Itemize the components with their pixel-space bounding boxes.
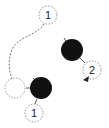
- ghost-touch-left: [5, 78, 25, 98]
- drag-path: [9, 24, 44, 79]
- tick-right-finger: [64, 38, 66, 41]
- step-2-marker: 2: [83, 61, 101, 79]
- step-1-top-label: 1: [45, 9, 51, 21]
- finger-left: [30, 77, 52, 99]
- finger-right: [61, 39, 83, 61]
- connector-right: [80, 58, 85, 63]
- step-1-bottom-label: 1: [31, 107, 37, 119]
- gesture-diagram: 1 1 2: [0, 0, 109, 128]
- step-1-bottom-marker: 1: [25, 104, 43, 122]
- step-1-top-marker: 1: [39, 6, 57, 24]
- arrow-head-icon: [83, 76, 89, 82]
- connector-bottom: [35, 99, 37, 104]
- step-2-label: 2: [89, 64, 95, 76]
